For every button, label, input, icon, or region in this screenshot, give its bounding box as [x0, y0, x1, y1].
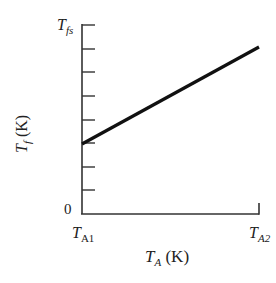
- y-axis-title-main: T: [13, 144, 30, 153]
- y-top-sub: fs: [66, 24, 73, 36]
- x-right-sub: A2: [258, 232, 270, 244]
- y-axis-title-unit: (K): [13, 115, 30, 141]
- y-tick-label-tfs: Tfs: [57, 17, 73, 33]
- x-tick-label-ta2: TA2: [249, 225, 270, 241]
- y-top-main: T: [57, 16, 66, 33]
- y-axis-title-sub: f: [21, 141, 33, 144]
- y-axis-ticks: [82, 25, 95, 190]
- x-axis-title-sub: A: [154, 256, 161, 268]
- data-line: [82, 47, 259, 144]
- y-axis-title: Tf (K): [14, 115, 30, 153]
- y-zero: 0: [64, 201, 72, 217]
- x-right-main: T: [249, 224, 258, 241]
- x-tick-label-ta1: TA1: [72, 225, 94, 241]
- chart-plot-area: [0, 0, 276, 283]
- y-tick-label-zero: 0: [64, 202, 72, 217]
- x-left-sub: A1: [81, 232, 94, 244]
- x-left-main: T: [72, 224, 81, 241]
- x-axis-title-unit: (K): [161, 247, 189, 266]
- x-axis-title: TA (K): [145, 248, 189, 265]
